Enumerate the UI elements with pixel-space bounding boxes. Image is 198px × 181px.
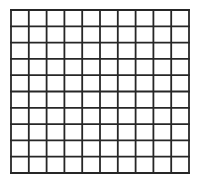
square-grid xyxy=(10,9,190,174)
